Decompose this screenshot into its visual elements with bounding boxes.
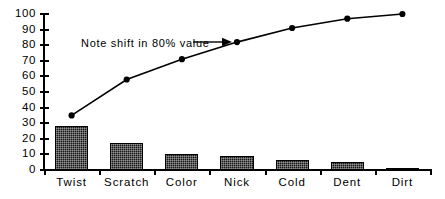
y-axis-tick-label: 50 — [2, 86, 36, 98]
x-axis-tick — [265, 169, 267, 175]
x-axis-tick — [99, 169, 101, 175]
x-axis-tick — [154, 169, 156, 175]
x-axis-label: Dent — [320, 176, 375, 189]
bar — [220, 156, 253, 170]
bar — [55, 126, 88, 170]
x-axis-tick — [209, 169, 211, 175]
y-axis-tick-label: 100 — [2, 8, 36, 20]
x-axis-line — [43, 169, 431, 171]
x-axis-tick — [375, 169, 377, 175]
x-axis-label: Dirt — [375, 176, 430, 189]
annotation-label: Note shift in 80% value — [81, 37, 210, 49]
x-axis-tick — [430, 169, 432, 175]
x-axis-tick — [320, 169, 322, 175]
y-axis-tick-label: 60 — [2, 70, 36, 82]
x-axis-label: Scratch — [99, 176, 154, 189]
x-axis-label: Nick — [209, 176, 264, 189]
x-axis-label: Twist — [44, 176, 99, 189]
bar — [165, 154, 198, 170]
y-axis-tick-label: 80 — [2, 39, 36, 51]
pareto-chart: 0102030405060708090100 TwistScratchColor… — [0, 0, 445, 199]
x-axis-tick — [44, 169, 46, 175]
y-axis-tick-label: 10 — [2, 148, 36, 160]
y-axis-tick-label: 0 — [2, 164, 36, 176]
x-axis-label: Color — [154, 176, 209, 189]
y-axis-tick-label: 20 — [2, 133, 36, 145]
y-axis-tick-label: 30 — [2, 117, 36, 129]
x-axis-label: Cold — [265, 176, 320, 189]
y-axis-tick-label: 90 — [2, 24, 36, 36]
y-axis-tick-label: 70 — [2, 55, 36, 67]
y-axis-tick-label: 40 — [2, 102, 36, 114]
bar — [110, 143, 143, 170]
